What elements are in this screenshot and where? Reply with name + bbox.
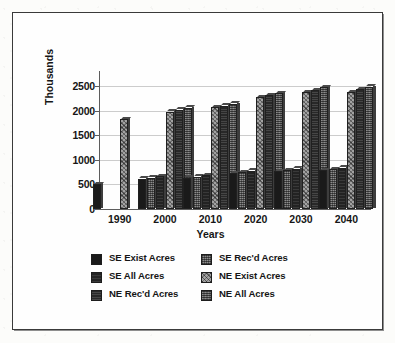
- bar: [147, 178, 155, 209]
- bar: [138, 179, 146, 210]
- x-axis-title: Years: [13, 228, 395, 240]
- y-tick-label: 1500: [72, 129, 95, 141]
- bar-top-face: [94, 182, 104, 184]
- bar-face: [238, 172, 246, 209]
- legend-item[interactable]: NE All Acres: [201, 287, 313, 304]
- legend-swatch: [201, 272, 212, 283]
- bar-face: [265, 95, 273, 209]
- chart-legend: SE Exist AcresSE All AcresNE Rec'd Acres…: [91, 251, 331, 309]
- legend-label: NE Exist Acres: [219, 270, 286, 281]
- bar-face: [274, 171, 282, 209]
- bar: [220, 106, 228, 209]
- bar: [329, 169, 337, 209]
- legend-item[interactable]: NE Exist Acres: [201, 269, 313, 286]
- bar: [202, 175, 210, 209]
- bar-face: [356, 89, 364, 209]
- y-tick-label: 2000: [72, 105, 95, 117]
- bar-face: [338, 168, 346, 209]
- bar: [311, 90, 319, 209]
- x-tick-label: 2000: [153, 213, 176, 225]
- bar: [302, 92, 310, 209]
- bar-face: [292, 169, 300, 209]
- bar-face: [156, 176, 164, 209]
- y-tick-label: 2500: [72, 80, 95, 92]
- bar: [292, 169, 300, 209]
- legend-label: NE Rec'd Acres: [109, 288, 178, 299]
- legend-swatch: [91, 272, 102, 283]
- bar: [175, 110, 183, 209]
- y-tick-mark: [95, 209, 100, 210]
- x-tick-label: 2020: [244, 213, 267, 225]
- bar-group: [319, 86, 373, 209]
- bar-face: [93, 184, 101, 209]
- legend-label: SE Exist Acres: [109, 252, 175, 263]
- legend-column-right: SE Rec'd AcresNE Exist AcresNE All Acres: [201, 251, 313, 305]
- bar: [265, 95, 273, 209]
- bar: [283, 170, 291, 209]
- bar-face: [166, 112, 174, 209]
- bar: [247, 171, 255, 209]
- bar: [166, 112, 174, 209]
- bar-face: [202, 175, 210, 209]
- y-tick-label: 1000: [72, 154, 95, 166]
- bar-face: [120, 119, 128, 209]
- bar-side-shadow: [128, 118, 130, 208]
- bar: [256, 97, 264, 209]
- bar-face: [329, 169, 337, 209]
- legend-swatch: [201, 254, 212, 265]
- x-tick-label: 1990: [108, 213, 131, 225]
- bar-face: [247, 171, 255, 209]
- legend-column-left: SE Exist AcresSE All AcresNE Rec'd Acres: [91, 251, 203, 305]
- plot-area: [99, 71, 371, 209]
- bar-face: [311, 90, 319, 209]
- bar: [347, 92, 355, 209]
- legend-swatch: [201, 290, 212, 301]
- bar-side-shadow: [101, 183, 103, 208]
- legend-label: SE Rec'd Acres: [219, 252, 288, 263]
- legend-swatch: [91, 290, 102, 301]
- bar: [238, 172, 246, 209]
- bar: [120, 119, 128, 209]
- bar-face: [365, 87, 373, 210]
- bar: [338, 168, 346, 209]
- chart-frame-border: Thousands 05001000150020002500 199020002…: [12, 12, 383, 330]
- bar-face: [229, 173, 237, 209]
- y-axis-tick-labels: 05001000150020002500: [53, 71, 95, 209]
- bar-side-shadow: [373, 86, 375, 209]
- bars-container: [99, 86, 371, 209]
- x-axis-line: [95, 209, 371, 210]
- bar: [319, 170, 327, 209]
- bar: [365, 87, 373, 210]
- legend-item[interactable]: NE Rec'd Acres: [91, 287, 203, 304]
- bar-face: [193, 177, 201, 209]
- bar-face: [183, 178, 191, 209]
- bar: [183, 178, 191, 209]
- bar-face: [220, 106, 228, 209]
- bar-face: [175, 110, 183, 209]
- x-tick-label: 2030: [289, 213, 312, 225]
- bar: [229, 173, 237, 209]
- legend-item[interactable]: SE Rec'd Acres: [201, 251, 313, 268]
- bar: [211, 107, 219, 209]
- legend-item[interactable]: SE All Acres: [91, 269, 203, 286]
- bar: [156, 176, 164, 209]
- legend-label: SE All Acres: [109, 270, 164, 281]
- legend-item[interactable]: SE Exist Acres: [91, 251, 203, 268]
- x-axis-tick-labels: 199020002010202020302040: [99, 213, 371, 227]
- bar-face: [283, 170, 291, 209]
- bar-face: [347, 92, 355, 209]
- bar: [93, 184, 101, 209]
- bar-face: [211, 107, 219, 209]
- x-tick-label: 2040: [335, 213, 358, 225]
- bar: [193, 177, 201, 209]
- legend-swatch: [91, 254, 102, 265]
- bar: [274, 171, 282, 209]
- bar: [356, 89, 364, 209]
- bar-face: [138, 179, 146, 210]
- bar-face: [302, 92, 310, 209]
- chart-figure: Thousands 05001000150020002500 199020002…: [0, 0, 395, 343]
- legend-label: NE All Acres: [219, 288, 275, 299]
- bar-face: [256, 97, 264, 209]
- bar-face: [319, 170, 327, 209]
- bar-face: [147, 178, 155, 209]
